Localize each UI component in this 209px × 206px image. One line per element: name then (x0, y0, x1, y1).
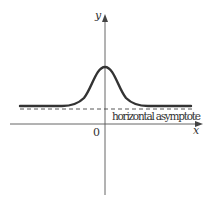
bell-curve (20, 67, 191, 106)
graph-canvas: y x 0 horizontal asymptote (0, 0, 209, 206)
origin-label: 0 (93, 126, 100, 139)
asymptote-label: horizontal asymptote (112, 110, 201, 122)
x-axis-label: x (193, 124, 200, 137)
y-axis-arrow-icon (102, 14, 108, 22)
y-axis-label: y (94, 9, 102, 22)
